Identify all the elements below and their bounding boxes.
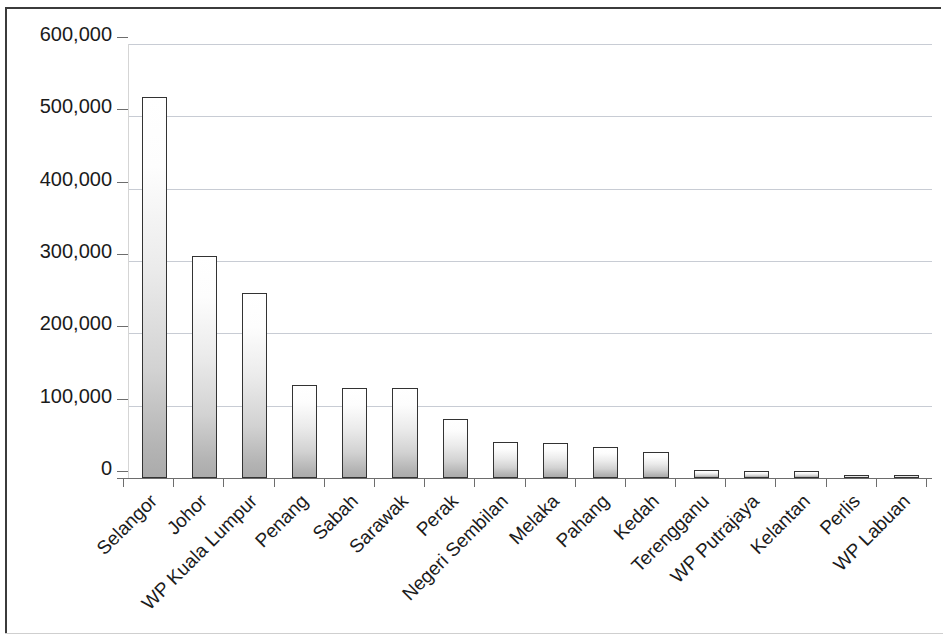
gridline-500000 [129,116,932,117]
y-axis-tick-labels: 600,000500,000400,000300,000200,000100,0… [7,9,112,643]
bar [142,97,167,478]
x-tick-mark [525,478,526,487]
y-tick-label: 100,000 [12,385,112,408]
x-tick-mark [826,478,827,487]
x-tick-mark [374,478,375,487]
bar [493,442,518,478]
bar [242,293,267,478]
y-tick-label: 400,000 [12,168,112,191]
x-axis-label-melaka: Melaka [336,490,564,643]
x-tick-mark [173,478,174,487]
x-tick-mark [575,478,576,487]
gridline-400000 [129,189,932,190]
bar [694,470,719,478]
y-tick-label: 200,000 [12,312,112,335]
x-tick-mark [625,478,626,487]
y-tick-mark [117,109,128,110]
x-tick-mark [274,478,275,487]
y-tick-mark [117,254,128,255]
bar [292,385,317,478]
x-tick-mark [474,478,475,487]
x-axis-label-kedah: Kedah [436,490,664,643]
bar [392,388,417,478]
y-tick-label: 600,000 [12,23,112,46]
x-axis-label-perlis: Perlis [637,490,865,643]
gridline-300000 [129,261,932,262]
bar [443,419,468,478]
y-tick-mark [117,326,128,327]
chart-frame: 600,000500,000400,000300,000200,000100,0… [5,7,941,633]
x-axis-label-terengganu: Terengganu [486,490,714,643]
bar [543,443,568,478]
frame-bottom-rule [5,633,943,634]
x-tick-mark [675,478,676,487]
plot-area [129,44,932,478]
y-tick-mark [117,37,128,38]
x-axis-label-perak: Perak [235,490,463,643]
x-axis-label-sarawak: Sarawak [185,490,413,643]
x-axis-label-sabah: Sabah [135,490,363,643]
x-tick-mark [223,478,224,487]
x-tick-mark [926,478,927,487]
y-axis-line [128,44,129,479]
x-axis-label-negeri-sembilan: Negeri Sembilan [285,490,513,643]
x-axis-label-wp-labuan: WP Labuan [687,490,915,643]
x-tick-mark [725,478,726,487]
y-tick-label: 300,000 [12,240,112,263]
bar [342,388,367,478]
bar [744,471,769,478]
y-tick-mark [117,471,128,472]
x-tick-mark [123,478,124,487]
x-axis-label-penang: Penang [85,490,313,643]
bar [593,447,618,478]
x-axis-label-wp-putrajaya: WP Putrajaya [536,490,764,643]
y-tick-label: 500,000 [12,95,112,118]
x-tick-mark [876,478,877,487]
y-tick-mark [117,399,128,400]
gridline-600000 [129,44,932,45]
bar [192,256,217,478]
x-axis-label-kelantan: Kelantan [587,490,815,643]
x-tick-mark [424,478,425,487]
y-tick-label: 0 [12,457,112,480]
x-tick-mark [324,478,325,487]
x-tick-mark [775,478,776,487]
bar [794,471,819,478]
bar [643,452,668,478]
x-axis-label-pahang: Pahang [386,490,614,643]
y-tick-mark [117,182,128,183]
